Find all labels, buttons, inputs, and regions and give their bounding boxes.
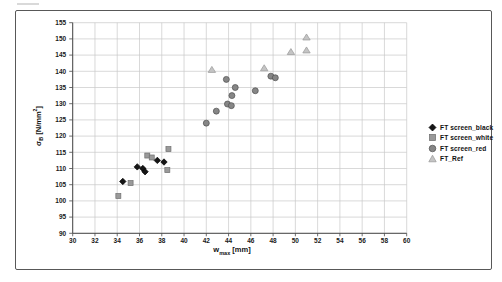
data-point-triangle <box>303 47 310 53</box>
y-tick-label: 105 <box>55 181 66 188</box>
data-point-triangle <box>208 66 215 72</box>
x-axis-title: wmax [mm] <box>172 245 292 256</box>
y-tick-label: 140 <box>55 68 66 75</box>
data-point-square <box>166 147 171 152</box>
data-point-square <box>116 194 121 199</box>
y-axis-title-sub: B <box>38 137 44 141</box>
legend-item-ft-screen-white: FT screen_white <box>428 133 493 143</box>
legend-label: FT screen_red <box>440 145 486 152</box>
x-tick-label: 44 <box>225 237 233 244</box>
y-axis-title-unit: [N/mm <box>34 111 43 136</box>
legend-item-ft-screen-red: FT screen_red <box>428 143 493 153</box>
legend-item-ft-screen-black: FT screen_black <box>428 122 493 132</box>
x-tick-label: 54 <box>336 237 344 244</box>
data-point-diamond <box>154 157 160 163</box>
x-tick-label: 34 <box>114 237 122 244</box>
x-tick-label: 56 <box>359 237 367 244</box>
y-tick-label: 120 <box>55 132 66 139</box>
data-point-circle <box>229 93 235 99</box>
y-tick-label: 110 <box>56 165 67 172</box>
y-tick-label: 155 <box>55 19 66 26</box>
data-point-circle <box>252 88 258 94</box>
data-point-square <box>149 155 154 160</box>
y-tick-label: 150 <box>55 35 66 42</box>
x-tick-label: 58 <box>381 237 389 244</box>
y-tick-label: 135 <box>55 84 66 91</box>
data-point-diamond <box>120 178 126 184</box>
y-tick-label: 90 <box>59 230 67 237</box>
data-point-square <box>165 168 170 173</box>
data-point-circle <box>228 103 234 109</box>
x-axis-title-unit: [mm] <box>230 245 250 254</box>
x-tick-label: 46 <box>247 237 255 244</box>
data-point-circle <box>272 75 278 81</box>
x-tick-label: 42 <box>203 237 211 244</box>
square-marker-icon <box>428 133 437 142</box>
data-point-triangle <box>287 49 294 55</box>
diamond-marker-icon <box>428 123 437 132</box>
legend: FT screen_black FT screen_white FT scree… <box>428 122 493 164</box>
data-point-circle <box>203 120 209 126</box>
triangle-marker-icon <box>428 154 437 163</box>
x-tick-label: 32 <box>91 237 99 244</box>
data-point-circle <box>232 85 238 91</box>
legend-item-ft-ref: FT_Ref <box>428 154 493 164</box>
legend-label: FT_Ref <box>440 155 463 162</box>
circle-marker-icon <box>428 144 437 153</box>
x-tick-label: 50 <box>292 237 300 244</box>
data-point-triangle <box>260 65 267 71</box>
y-axis-title-sup: 2 <box>32 109 38 112</box>
data-point-triangle <box>303 34 310 40</box>
y-axis-title-base: σ <box>34 141 43 146</box>
x-tick-label: 52 <box>314 237 322 244</box>
y-tick-label: 130 <box>55 100 66 107</box>
x-tick-label: 48 <box>269 237 277 244</box>
x-tick-label: 38 <box>158 237 166 244</box>
y-axis-title-unit-end: ] <box>34 106 43 109</box>
x-tick-label: 30 <box>69 237 77 244</box>
legend-label: FT screen_white <box>440 134 493 141</box>
y-tick-label: 145 <box>55 51 66 58</box>
x-tick-label: 40 <box>180 237 188 244</box>
y-tick-label: 100 <box>55 197 66 204</box>
scatter-plot-canvas: 3032343638404244464850525456586090951001… <box>0 0 502 282</box>
chart-figure: 3032343638404244464850525456586090951001… <box>0 0 502 282</box>
data-point-circle <box>213 108 219 114</box>
data-point-circle <box>223 76 229 82</box>
y-axis-title: σB [N/mm2] <box>32 80 44 172</box>
y-tick-label: 125 <box>55 116 66 123</box>
x-axis-title-sub: max <box>219 250 230 256</box>
legend-label: FT screen_black <box>440 124 493 131</box>
x-tick-label: 60 <box>403 237 411 244</box>
y-tick-label: 95 <box>59 213 67 220</box>
data-point-square <box>128 181 133 186</box>
x-tick-label: 36 <box>136 237 144 244</box>
y-tick-label: 115 <box>56 149 67 156</box>
